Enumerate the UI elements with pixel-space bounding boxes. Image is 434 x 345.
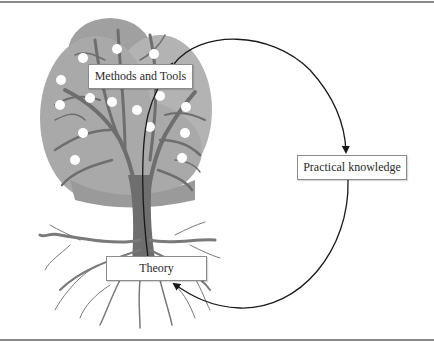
- node-practical-knowledge: Practical knowledge: [297, 155, 407, 180]
- node-label: Practical knowledge: [303, 160, 401, 175]
- node-label: Methods and Tools: [95, 69, 187, 84]
- node-theory: Theory: [106, 256, 207, 281]
- bottom-rule: [0, 339, 434, 341]
- node-label: Theory: [139, 261, 174, 276]
- node-methods-and-tools: Methods and Tools: [88, 64, 193, 89]
